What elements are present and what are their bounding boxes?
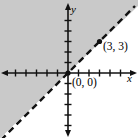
x-axis-label: x	[127, 73, 132, 84]
point-origin-dot	[65, 70, 70, 75]
point-3-3-label: (3, 3)	[103, 41, 128, 53]
point-origin-label: (0, 0)	[72, 77, 97, 89]
graph-canvas	[0, 0, 138, 138]
y-axis-label: y	[71, 4, 76, 15]
point-3-3-dot	[97, 39, 102, 44]
inequality-graph-figure: (3, 3) (0, 0) y x	[0, 0, 138, 138]
